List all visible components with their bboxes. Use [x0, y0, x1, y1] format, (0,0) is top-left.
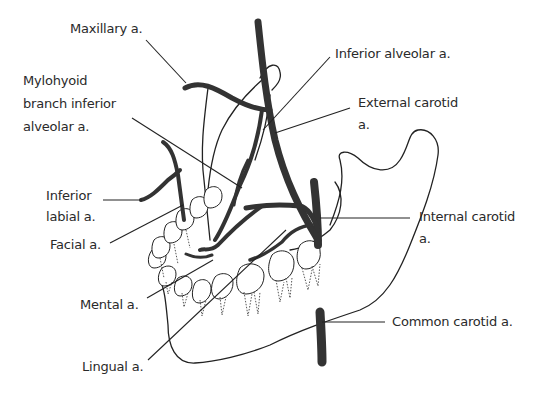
internal-carotid-artery — [314, 182, 318, 245]
label-internal-carotid-artery: Internal carotid a. — [419, 208, 515, 247]
label-internal-carotid-line1: Internal carotid — [419, 208, 515, 225]
label-common-carotid-artery: Common carotid a. — [392, 313, 513, 330]
label-inferior-labial-line1: Inferior — [46, 187, 95, 204]
label-mental-artery: Mental a. — [80, 296, 139, 313]
arteries — [141, 22, 322, 362]
label-mylohyoid-branch: Mylohyoid branch inferior alveolar a. — [23, 72, 116, 135]
mental-artery — [186, 254, 212, 257]
label-external-carotid-line2: a. — [358, 116, 458, 133]
label-mylohyoid-line3: alveolar a. — [23, 118, 116, 135]
label-inferior-labial-line2: labial a. — [46, 208, 95, 225]
label-maxillary-artery: Maxillary a. — [70, 20, 143, 37]
label-internal-carotid-line2: a. — [419, 230, 515, 247]
label-external-carotid-artery: External carotid a. — [358, 94, 458, 133]
leader-lines — [103, 40, 410, 360]
label-facial-artery: Facial a. — [50, 236, 101, 253]
label-external-carotid-line1: External carotid — [358, 94, 458, 111]
maxillary-artery — [185, 85, 270, 110]
label-inferior-alveolar-artery: Inferior alveolar a. — [335, 45, 450, 62]
label-mylohyoid-line1: Mylohyoid — [23, 72, 116, 89]
common-carotid-artery — [320, 312, 322, 362]
label-inferior-labial-artery: Inferior labial a. — [46, 187, 95, 225]
label-mylohyoid-line2: branch inferior — [23, 95, 116, 112]
label-lingual-artery: Lingual a. — [82, 358, 143, 375]
